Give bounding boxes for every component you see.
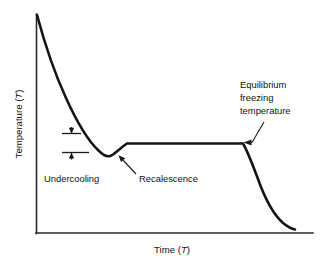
cooling-curve-plot: Undercooling Recalescence Equilibrium fr… xyxy=(0,0,324,261)
equilibrium-label-line2: freezing xyxy=(240,92,273,103)
x-axis-title: Time (T) xyxy=(154,244,190,255)
plot-background xyxy=(0,0,324,261)
recalescence-label: Recalescence xyxy=(139,173,198,184)
y-axis-title-text: Temperature ( xyxy=(13,98,24,159)
x-axis-title-text: Time ( xyxy=(154,244,182,255)
y-axis-title: Temperature (T) xyxy=(13,90,24,159)
equilibrium-label-line3: temperature xyxy=(240,105,291,116)
x-axis-title-close: ) xyxy=(187,244,190,255)
cooling-curve-figure: Undercooling Recalescence Equilibrium fr… xyxy=(0,0,324,261)
y-axis-title-group: Temperature (T) xyxy=(13,90,24,159)
undercooling-label: Undercooling xyxy=(44,173,99,184)
equilibrium-label-line1: Equilibrium xyxy=(240,79,287,90)
y-axis-title-close: ) xyxy=(13,90,24,93)
